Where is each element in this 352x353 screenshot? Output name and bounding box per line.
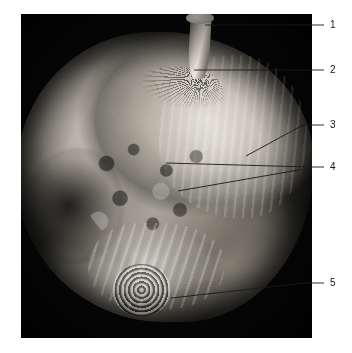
- specimen-rosette-structure: [112, 264, 171, 316]
- callout-number-1: 1: [330, 20, 336, 30]
- specimen-mass: [21, 32, 312, 322]
- callout-number-4: 4: [330, 162, 336, 172]
- specimen-figure: 12345: [0, 0, 352, 353]
- callout-number-5: 5: [330, 278, 336, 288]
- specimen-photo-plate: [21, 14, 312, 338]
- specimen-hilar-vessel-fan: [124, 67, 225, 119]
- callout-number-3: 3: [330, 120, 336, 130]
- callout-number-2: 2: [330, 65, 336, 75]
